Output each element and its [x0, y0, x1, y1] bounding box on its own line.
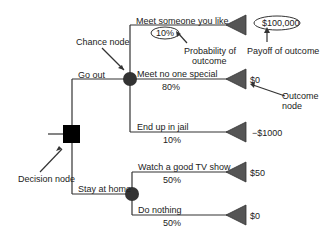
decision-node [63, 125, 80, 143]
branch-label-stay-home: Stay at home [78, 184, 131, 194]
payoff-2: $0 [250, 75, 260, 85]
outcome-label-4: Watch a good TV show [138, 162, 231, 172]
outcome-label-2: Meet no one special [137, 69, 218, 79]
decision-node-label: Decision node [18, 174, 75, 184]
outcome-node-2 [226, 69, 246, 89]
chance-node-label: Chance node [76, 37, 130, 47]
annotation-outcome-node: Outcome [282, 91, 319, 101]
probability-1: 10% [156, 28, 174, 38]
probability-2: 80% [162, 82, 180, 92]
annotation-payoff: Payoff of outcome [247, 46, 319, 56]
outcome-node-3 [226, 122, 246, 142]
probability-4: 50% [163, 175, 181, 185]
outcome-node-5 [226, 205, 246, 225]
chance-node-go-out [123, 72, 137, 86]
probability-3: 10% [163, 135, 181, 145]
outcome-label-5: Do nothing [138, 205, 182, 215]
outcome-label-3: End up in jail [137, 122, 189, 132]
annotation-probability: Probability of [184, 46, 236, 56]
payoff-1: $100,000 [262, 18, 300, 28]
annotation-outcome-node-2: node [282, 101, 302, 111]
branch-label-go-out: Go out [78, 70, 105, 80]
payoff-4: $50 [250, 168, 265, 178]
payoff-5: $0 [250, 211, 260, 221]
outcome-label-1: Meet someone you like [136, 16, 229, 26]
payoff-3: −$1000 [252, 128, 282, 138]
outcome-node-1 [226, 15, 246, 35]
probability-5: 50% [163, 218, 181, 228]
annotation-probability-2: outcome [192, 56, 227, 66]
